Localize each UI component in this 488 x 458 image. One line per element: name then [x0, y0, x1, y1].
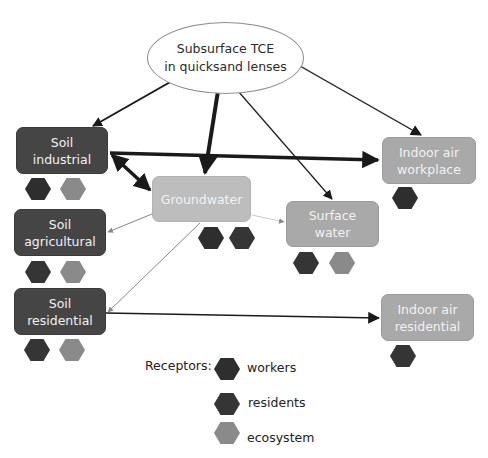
node-soil-agricultural: Soil agricultural: [14, 209, 106, 256]
node-indoor-air-residential: Indoor air residential: [381, 294, 474, 341]
node-surface-water: Surface water: [286, 201, 379, 247]
node-groundwater: Groundwater: [152, 176, 251, 222]
legend-label-residents: residents: [248, 395, 306, 410]
source-subsurface-tce: Subsurface TCE in quicksand lenses: [147, 22, 304, 94]
edge-groundwater-surface-water: [252, 215, 284, 222]
node-soil-residential: Soil residential: [14, 288, 106, 335]
edge-source-surface-water: [238, 91, 332, 199]
node-soil-industrial: Soil industrial: [16, 127, 108, 174]
edge-groundwater-soil-residential: [108, 223, 200, 312]
node-indoor-air-workplace: Indoor air workplace: [382, 137, 476, 184]
edge-source-groundwater: [205, 91, 218, 173]
edge-source-indoor-air-workplace: [300, 66, 421, 135]
edge-soil-residential-indoor-air-residential: [106, 313, 379, 318]
edge-source-soil-industrial: [93, 81, 172, 126]
edge-groundwater-soil-agricultural: [108, 214, 152, 232]
edge-soil-industrial-indoor-air-workplace: [110, 153, 378, 160]
conceptual-site-model-diagram: Subsurface TCE in quicksand lenses Soil …: [0, 0, 488, 458]
legend-title: Receptors:: [145, 358, 212, 373]
legend-label-ecosystem: ecosystem: [247, 430, 314, 445]
edge-soil-industrial-groundwater: [112, 155, 150, 190]
legend-label-workers: workers: [247, 360, 296, 375]
